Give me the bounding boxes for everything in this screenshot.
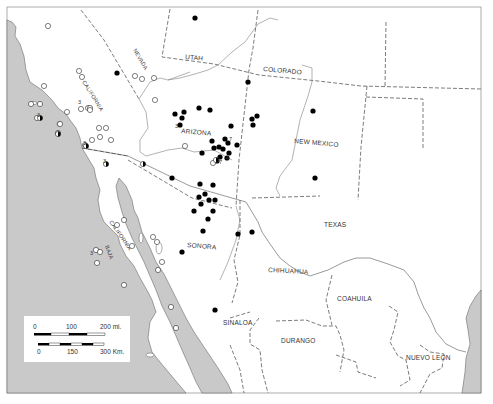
- record-dot-open: [57, 121, 62, 126]
- record-dot-open: [159, 259, 164, 264]
- record-dot-open: [168, 304, 173, 309]
- record-dot-open: [79, 74, 84, 79]
- record-count-label: 7: [219, 159, 222, 165]
- record-dot-open: [151, 75, 156, 80]
- record-dot-open: [121, 217, 126, 222]
- record-dot-open: [173, 325, 178, 330]
- record-dot-filled: [200, 228, 205, 233]
- record-dot-open: [89, 137, 94, 142]
- record-dot-filled: [196, 194, 201, 199]
- record-dot-filled: [250, 122, 255, 127]
- scale-km-150: 150: [67, 348, 78, 355]
- record-dot-open: [155, 267, 160, 272]
- record-count-label: 3: [175, 123, 178, 129]
- record-dot-filled: [234, 142, 239, 147]
- scale-mi-100: 100: [66, 323, 77, 330]
- label-coahuila: COAHUILA: [337, 295, 372, 302]
- record-dot-filled: [207, 107, 212, 112]
- scale-km-300: 300 Km.: [100, 348, 124, 355]
- record-dot-filled: [169, 175, 174, 180]
- record-dot-open: [154, 239, 159, 244]
- record-dot-open: [96, 125, 101, 130]
- record-dot-filled: [249, 116, 254, 121]
- record-dot-filled: [211, 145, 216, 150]
- record-dot-filled: [206, 197, 211, 202]
- record-count-label: 4: [226, 155, 229, 161]
- record-dot-filled: [114, 70, 119, 75]
- record-dot-open: [41, 83, 46, 88]
- label-nuevo-leon: NUEVO LEON: [406, 354, 451, 361]
- record-dot-filled: [210, 208, 215, 213]
- record-dot-open: [28, 101, 33, 106]
- scale-bar: 0 100 200 mi. 0 150 300 Km.: [24, 316, 130, 362]
- record-dot-filled: [254, 113, 259, 118]
- record-count-label: 3: [90, 250, 93, 256]
- record-count-label: 3: [37, 112, 40, 118]
- record-dot-open: [76, 68, 81, 73]
- record-dot-filled: [197, 181, 202, 186]
- record-dot-open: [121, 282, 126, 287]
- record-count-label: 3: [103, 158, 106, 164]
- record-dot-filled: [191, 208, 196, 213]
- record-dot-filled: [245, 79, 250, 84]
- scale-mi-200: 200 mi.: [100, 323, 121, 330]
- record-dot-open: [87, 107, 92, 112]
- label-durango: DURANGO: [281, 337, 316, 344]
- scale-km-0: 0: [37, 348, 41, 355]
- record-dot-filled: [228, 123, 233, 128]
- record-dot-open: [37, 101, 42, 106]
- record-dot-filled: [310, 108, 315, 113]
- record-dot-open: [64, 109, 69, 114]
- record-dot-filled: [210, 182, 215, 187]
- record-dot-open: [108, 137, 113, 142]
- record-dot-filled: [198, 201, 203, 206]
- record-count-label: 3: [78, 99, 81, 105]
- record-dot-filled: [179, 115, 184, 120]
- record-dot-filled: [209, 138, 214, 143]
- record-dot-filled: [199, 150, 204, 155]
- record-dot-filled: [205, 216, 210, 221]
- record-dot-open: [103, 125, 108, 130]
- record-dot-filled: [312, 175, 317, 180]
- label-sinaloa: SINALOA: [223, 319, 253, 326]
- record-count-label: 3: [83, 140, 86, 146]
- record-dot-open: [139, 76, 144, 81]
- record-dot-filled: [196, 105, 201, 110]
- record-count-label: 7: [229, 136, 232, 142]
- record-dot-open: [94, 260, 99, 265]
- record-dot-open: [45, 23, 50, 28]
- record-dot-filled: [220, 146, 225, 151]
- record-dot-open: [78, 106, 83, 111]
- record-dot-open: [97, 134, 102, 139]
- scale-mi-0: 0: [33, 323, 37, 330]
- record-dot-open: [150, 234, 155, 239]
- record-dot-open: [132, 73, 137, 78]
- record-dot-filled: [212, 197, 217, 202]
- record-dot-open: [129, 243, 134, 248]
- label-texas: TEXAS: [324, 221, 347, 228]
- record-dot-filled: [181, 109, 186, 114]
- record-dot-filled: [249, 229, 254, 234]
- record-dot-filled: [172, 111, 177, 116]
- record-dot-filled: [235, 231, 240, 236]
- record-dot-open: [114, 222, 119, 227]
- record-dot-open: [97, 249, 102, 254]
- record-dot-open: [152, 97, 157, 102]
- record-dot-filled: [202, 191, 207, 196]
- record-dot-open: [182, 143, 187, 148]
- record-dot-filled: [192, 15, 197, 20]
- record-dot-filled: [212, 307, 217, 312]
- record-dot-filled: [179, 249, 184, 254]
